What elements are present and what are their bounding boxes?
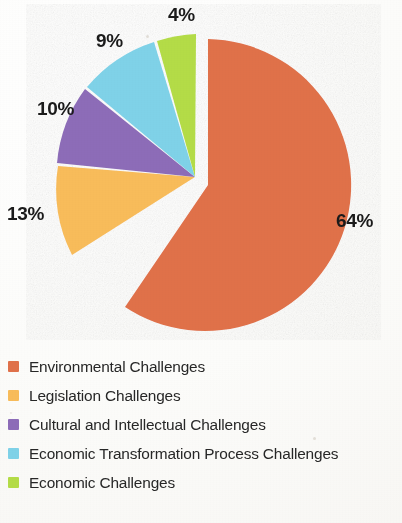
legend-swatch-icon: [8, 477, 19, 488]
legend-item-label: Environmental Challenges: [29, 358, 205, 376]
legend-item-label: Economic Transformation Process Challeng…: [29, 445, 338, 463]
pie-label-cultural-and-intellectual-challenges: 10%: [37, 98, 74, 120]
legend-swatch-icon: [8, 419, 19, 430]
pie-label-environmental-challenges: 64%: [336, 210, 373, 232]
legend-item-label: Economic Challenges: [29, 474, 175, 492]
chart-legend: Environmental ChallengesLegislation Chal…: [0, 352, 402, 497]
legend-item[interactable]: Cultural and Intellectual Challenges: [0, 410, 402, 439]
legend-swatch-icon: [8, 448, 19, 459]
pie-chart-figure: 64% 13% 10% 9% 4%: [0, 0, 402, 340]
pie-label-economic-challenges: 4%: [168, 4, 195, 26]
legend-item-label: Cultural and Intellectual Challenges: [29, 416, 266, 434]
pie-label-legislation-challenges: 13%: [7, 203, 44, 225]
legend-swatch-icon: [8, 390, 19, 401]
pie-label-economic-transformation-process-challenges: 9%: [96, 30, 123, 52]
legend-item[interactable]: Economic Transformation Process Challeng…: [0, 439, 402, 468]
legend-item[interactable]: Environmental Challenges: [0, 352, 402, 381]
legend-item-label: Legislation Challenges: [29, 387, 181, 405]
pie-chart-svg: [0, 0, 402, 340]
legend-item[interactable]: Legislation Challenges: [0, 381, 402, 410]
legend-swatch-icon: [8, 361, 19, 372]
pie-chart-page: 64% 13% 10% 9% 4% Environmental Challeng…: [0, 0, 402, 523]
legend-item[interactable]: Economic Challenges: [0, 468, 402, 497]
